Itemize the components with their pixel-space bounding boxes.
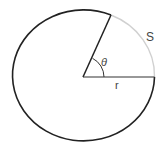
arc-s xyxy=(111,15,155,77)
circle-arc-diagram: S θ r xyxy=(0,0,162,148)
arc-label: S xyxy=(146,30,154,44)
angle-label: θ xyxy=(101,56,107,68)
diagram-canvas: S θ r xyxy=(0,0,162,148)
radius-label: r xyxy=(115,79,119,91)
